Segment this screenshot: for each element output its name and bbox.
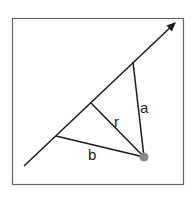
label-a: a	[140, 99, 149, 116]
segment-b	[56, 136, 144, 157]
diagram-canvas: a r b	[0, 0, 192, 198]
frame	[13, 19, 184, 185]
segment-r	[91, 103, 144, 157]
label-r: r	[114, 113, 119, 130]
label-b: b	[88, 146, 96, 163]
point-dot	[140, 153, 149, 162]
main-line-arrow	[24, 23, 175, 166]
